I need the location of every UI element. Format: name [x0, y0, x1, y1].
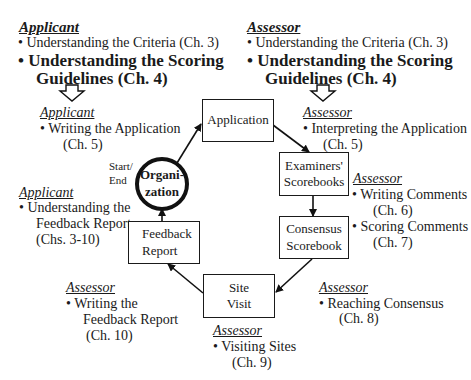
- consensus-scorebook-node: Consensus Scorebook: [279, 216, 349, 259]
- end-label: End: [109, 174, 133, 188]
- node-label: Scorebooks: [284, 174, 345, 190]
- assessor-item-criteria: • Understanding the Criteria (Ch. 3): [247, 36, 448, 50]
- application-node: Application: [202, 99, 274, 142]
- node-label: Visit: [227, 296, 252, 312]
- node-label: Consensus: [286, 221, 342, 237]
- reaching-consensus-header: Assessor: [319, 281, 368, 295]
- visiting-sites-item: • Visiting Sites: [213, 340, 296, 354]
- start-end-label: Start/End: [109, 160, 133, 188]
- bullet: •: [18, 51, 24, 70]
- item-text: Writing the Application: [48, 121, 180, 136]
- assessor-item-scoring-cont: Guidelines (Ch. 4): [265, 70, 397, 87]
- arrow-consensus-to-sitevisit: [276, 259, 312, 292]
- arrow-sitevisit-to-feedback: [168, 264, 203, 293]
- bullet: •: [352, 219, 357, 234]
- node-label: zation: [145, 184, 179, 201]
- start-label: Start/: [109, 160, 133, 174]
- scoring-comments-ch: (Ch. 7): [373, 236, 413, 250]
- item-text: Writing the: [74, 296, 138, 311]
- interpreting-application-header: Assessor: [303, 106, 352, 120]
- arrow-organization-to-application: [177, 124, 201, 163]
- item-text: Writing Comments: [360, 187, 467, 202]
- visiting-sites-ch: (Ch. 9): [232, 356, 272, 370]
- bullet: •: [352, 187, 357, 202]
- item-text: Understanding the: [27, 200, 130, 215]
- site-visit-node: Site Visit: [203, 274, 275, 318]
- writing-application-header: Applicant: [40, 106, 94, 120]
- item-text: Reaching Consensus: [327, 296, 443, 311]
- scoring-comments-item: • Scoring Comments: [352, 220, 468, 234]
- item-text: Understanding the Criteria (Ch. 3): [255, 35, 447, 50]
- writing-feedback-item: • Writing the: [66, 297, 138, 311]
- bullet: •: [213, 339, 218, 354]
- understanding-feedback-header: Applicant: [19, 186, 73, 200]
- understanding-feedback-item: • Understanding the: [19, 201, 130, 215]
- node-label: Scorebook: [286, 238, 342, 254]
- feedback-report-node: Feedback Report: [128, 221, 200, 264]
- node-label: Report: [142, 243, 177, 259]
- writing-application-item: • Writing the Application: [40, 122, 181, 136]
- bullet: •: [303, 121, 308, 136]
- reaching-consensus-item: • Reaching Consensus: [319, 297, 444, 311]
- interpreting-application-item: • Interpreting the Application: [303, 122, 467, 136]
- comments-header: Assessor: [353, 172, 402, 186]
- reaching-consensus-ch: (Ch. 8): [339, 312, 379, 326]
- node-label: Feedback: [142, 226, 192, 242]
- writing-feedback-ch: (Ch. 10): [86, 329, 133, 343]
- applicant-item-scoring: • Understanding the Scoring: [18, 52, 224, 69]
- item-text: Scoring Comments: [360, 219, 468, 234]
- applicant-item-criteria: • Understanding the Criteria (Ch. 3): [18, 36, 219, 50]
- understanding-feedback-ch: (Chs. 3-10): [36, 233, 100, 247]
- node-label: Application: [207, 112, 268, 128]
- applicant-header: Applicant: [19, 20, 79, 35]
- interpreting-application-ch: (Ch. 5): [323, 138, 363, 152]
- item-text: Understanding the Criteria (Ch. 3): [26, 35, 218, 50]
- bullet: •: [66, 296, 71, 311]
- visiting-sites-header: Assessor: [213, 324, 262, 338]
- node-label: Site: [229, 280, 249, 296]
- item-text: Interpreting the Application: [311, 121, 467, 136]
- item-text: Understanding the Scoring: [28, 51, 224, 70]
- organization-node: Organi- zation: [135, 157, 189, 211]
- item-text: Understanding the Scoring: [257, 51, 453, 70]
- node-label: Examiners': [285, 158, 343, 174]
- examiners-scorebooks-node: Examiners' Scorebooks: [279, 152, 349, 196]
- bullet: •: [40, 121, 45, 136]
- bullet: •: [247, 51, 253, 70]
- bullet: •: [319, 296, 324, 311]
- applicant-item-scoring-cont: Guidelines (Ch. 4): [36, 70, 168, 87]
- writing-feedback-line2: Feedback Report: [83, 313, 178, 327]
- assessor-item-scoring: • Understanding the Scoring: [247, 52, 453, 69]
- writing-comments-ch: (Ch. 6): [373, 204, 413, 218]
- bullet: •: [18, 35, 23, 50]
- writing-application-ch: (Ch. 5): [63, 138, 103, 152]
- bullet: •: [247, 35, 252, 50]
- writing-comments-item: • Writing Comments: [352, 188, 467, 202]
- bullet: •: [19, 200, 24, 215]
- item-text: Visiting Sites: [221, 339, 296, 354]
- assessor-header: Assessor: [247, 20, 300, 35]
- writing-feedback-header: Assessor: [66, 281, 115, 295]
- understanding-feedback-line2: Feedback Report: [36, 217, 131, 231]
- node-label: Organi-: [140, 167, 184, 184]
